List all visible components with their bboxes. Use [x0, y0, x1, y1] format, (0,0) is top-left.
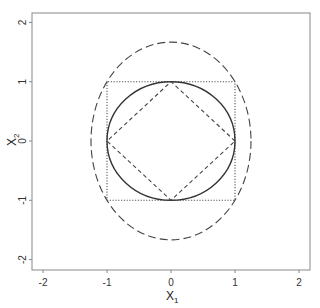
x-tick-label: -1 [103, 277, 112, 288]
x-tick-label: 1 [232, 277, 238, 288]
plot-frame [32, 13, 310, 270]
x-tick-label: 0 [168, 277, 174, 288]
x-tick-label: -2 [39, 277, 48, 288]
series-layer [91, 42, 251, 240]
y-axis-ticks: -2-1012 [17, 19, 32, 264]
y-tick-label: -1 [17, 195, 28, 204]
x-axis-ticks: -2-1012 [39, 270, 303, 288]
circle-series [107, 82, 235, 201]
ellipse-series [91, 42, 251, 240]
y-tick-label: 1 [17, 78, 28, 84]
chart: -2-1012 -2-1012 X1 X2 [0, 0, 320, 308]
y-tick-label: 2 [17, 19, 28, 25]
x-tick-label: 2 [296, 277, 302, 288]
y-tick-label: -2 [17, 255, 28, 264]
y-axis-label: X2 [5, 133, 21, 146]
x-axis-label: X1 [166, 289, 179, 305]
